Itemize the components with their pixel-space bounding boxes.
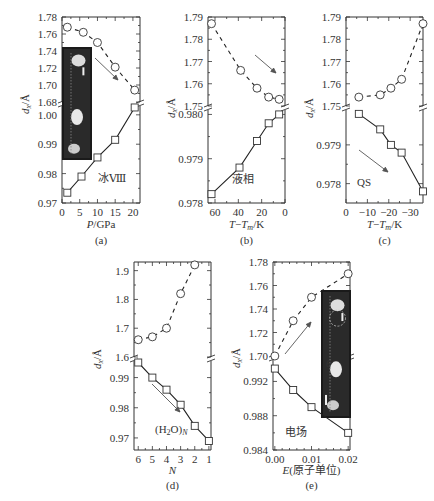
y-tick-label: 1.76	[184, 78, 204, 90]
theta-label: θ	[326, 358, 331, 369]
square-marker	[236, 164, 243, 171]
y-tick-label: 0.97	[110, 432, 130, 444]
x-tick-label: −20	[380, 206, 398, 218]
circle-marker	[148, 333, 156, 341]
y-tick-label: 1.79	[322, 11, 342, 23]
square-marker	[64, 189, 71, 196]
y-tick-label: 1.76	[249, 280, 269, 292]
y-tick-label: 0.980	[178, 108, 203, 120]
annotation-label: 液相	[232, 172, 254, 185]
figure: 051015201.681.701.721.741.761.780.970.98…	[0, 0, 434, 501]
annotation-label: (H2O)N	[155, 423, 188, 437]
square-marker	[271, 365, 278, 372]
circle-marker	[275, 95, 283, 103]
y-ticks-upper	[208, 17, 285, 106]
atom-icon	[68, 144, 80, 154]
y-tick-label: 0.979	[316, 139, 341, 151]
x-axis-label: T−Tm/K	[229, 218, 264, 232]
x-tick-label: 3	[178, 453, 184, 465]
y-tick-label: 1.68	[38, 96, 58, 108]
y-tick-label: 1.78	[38, 11, 58, 23]
square-marker	[345, 429, 352, 436]
panel-label: (c)	[378, 234, 391, 247]
y-tick-label: 1.77	[322, 56, 342, 68]
y-ticks-upper	[134, 271, 211, 357]
atom-icon	[330, 361, 342, 377]
inset-image: θ	[321, 290, 351, 418]
axis-break-mark	[204, 104, 212, 111]
square-marker	[398, 149, 405, 156]
x-tick-label: 20	[127, 206, 139, 218]
x-tick-label: 40	[233, 206, 245, 218]
x-tick-label: 10	[92, 206, 104, 218]
circle-marker	[111, 63, 119, 71]
circle-marker	[271, 352, 279, 360]
y-tick-label: 1.6	[115, 351, 129, 363]
circle-marker	[376, 91, 384, 99]
square-marker	[265, 120, 272, 127]
atom-icon	[71, 109, 83, 125]
y-tick-label: 1.72	[38, 62, 57, 74]
panel-label: (a)	[95, 234, 108, 247]
circle-marker	[419, 20, 427, 28]
x-tick-label: 60	[210, 206, 222, 218]
axis-break-mark	[419, 104, 427, 111]
y-tick-label: 0.988	[243, 410, 268, 422]
y-tick-label: 1.00	[38, 109, 58, 121]
x-tick-label: 0	[343, 206, 349, 218]
square-marker	[276, 111, 283, 118]
y-tick-label: 1.74	[38, 45, 58, 57]
circle-marker	[134, 336, 142, 344]
x-tick-label: −30	[402, 206, 420, 218]
panel-label: (e)	[305, 479, 318, 492]
circle-marker	[191, 261, 199, 269]
inset-image	[62, 47, 92, 160]
circle-marker	[177, 290, 185, 298]
panel-label: (b)	[240, 234, 253, 247]
y-tick-label: 0.99	[110, 372, 130, 384]
x-tick-label: 6	[135, 453, 141, 465]
y-tick-label: 0.984	[243, 444, 268, 456]
y-tick-label: 1.78	[249, 256, 269, 268]
circle-marker	[63, 23, 71, 31]
square-marker	[377, 126, 384, 133]
circle-marker	[93, 39, 101, 47]
panel-c: 0−10−20−301.751.761.771.781.790.9780.979…	[303, 11, 427, 247]
circle-marker	[237, 66, 245, 74]
annotation-label: QS	[357, 176, 371, 188]
square-marker	[131, 104, 138, 111]
y-tick-label: 0.98	[110, 402, 130, 414]
panel-b: 60402001.751.761.771.781.790.9780.9790.9…	[165, 11, 289, 247]
x-tick-label: 5	[150, 453, 156, 465]
circle-marker	[387, 84, 395, 92]
axis-break-mark	[342, 104, 350, 111]
x-axis-label: N	[168, 464, 177, 476]
y-axis-label: dx/Å	[303, 98, 317, 118]
trend-arrow-icon	[285, 322, 311, 354]
square-marker	[94, 154, 101, 161]
y-tick-label: 0.992	[243, 375, 268, 387]
axis-break-mark	[207, 355, 215, 362]
square-marker	[78, 173, 85, 180]
panel-e: 0.000.010.021.701.721.741.761.780.9840.9…	[230, 256, 358, 492]
circle-marker	[308, 293, 316, 301]
x-tick-label: 20	[256, 206, 268, 218]
x-tick-label: 15	[110, 206, 122, 218]
axis-break-mark	[281, 104, 289, 111]
x-tick-label: 5	[77, 206, 83, 218]
x-tick-label: 0.02	[339, 453, 358, 465]
square-marker	[387, 141, 394, 148]
y-tick-label: 1.70	[249, 350, 269, 362]
x-ticks	[138, 262, 209, 450]
y-tick-label: 0.97	[38, 197, 58, 209]
square-marker	[205, 437, 212, 444]
square-marker	[290, 387, 297, 394]
y-tick-label: 1.72	[249, 327, 268, 339]
square-marker	[355, 110, 362, 117]
atom-icon	[331, 299, 345, 311]
y-tick-label: 1.75	[322, 100, 342, 112]
annotation-label: 冰Ⅷ	[98, 172, 126, 184]
y-tick-label: 1.74	[249, 303, 269, 315]
square-marker	[112, 136, 119, 143]
square-marker	[254, 138, 261, 145]
